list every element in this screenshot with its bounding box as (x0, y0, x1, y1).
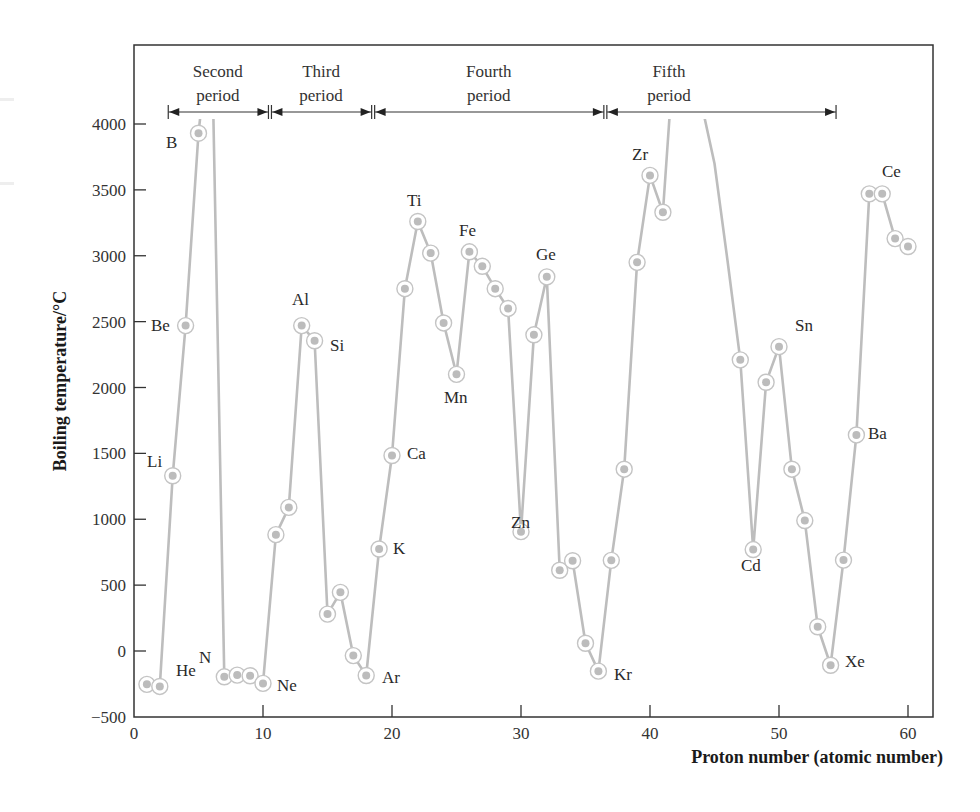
data-point (358, 668, 374, 684)
data-point (732, 352, 748, 368)
data-point (629, 254, 645, 270)
data-point (539, 269, 555, 285)
y-axis: −50005001000150020002500300035004000 (91, 115, 146, 727)
period-label: Fourth (466, 62, 512, 81)
element-label-n: N (199, 648, 211, 667)
element-label-xe: Xe (845, 652, 865, 671)
x-tick-label: 20 (384, 724, 401, 743)
data-point (771, 339, 787, 355)
data-point (384, 447, 400, 463)
data-point (345, 648, 361, 664)
arrowhead-right-icon (361, 108, 371, 116)
arrowhead-left-icon (376, 108, 386, 116)
element-labels: HeLiBeBNNeAlSiArKCaTiMnFeZnGeKrZrCdSnXeB… (147, 133, 901, 695)
element-label-sn: Sn (795, 316, 813, 335)
data-point (836, 552, 852, 568)
data-point (578, 635, 594, 651)
element-label-li: Li (147, 452, 162, 471)
data-point (165, 468, 181, 484)
data-point (784, 461, 800, 477)
period-label: period (196, 86, 240, 105)
y-tick-label: 0 (118, 642, 127, 661)
element-label-ba: Ba (868, 424, 887, 443)
y-tick-label: −500 (91, 708, 126, 727)
data-point (474, 258, 490, 274)
data-point (758, 374, 774, 390)
data-point (449, 366, 465, 382)
element-label-fe: Fe (459, 221, 476, 240)
arrowhead-right-icon (825, 108, 835, 116)
data-point (900, 239, 916, 255)
y-tick-label: 1000 (92, 510, 126, 529)
element-label-zr: Zr (632, 145, 648, 164)
element-label-ce: Ce (882, 162, 901, 181)
data-point (152, 678, 168, 694)
arrowhead-left-icon (169, 108, 179, 116)
period-label: Second (193, 62, 244, 81)
data-point (436, 315, 452, 331)
data-point (320, 606, 336, 622)
data-point (332, 584, 348, 600)
data-point (655, 204, 671, 220)
element-label-al: Al (292, 290, 309, 309)
x-axis-title: Proton number (atomic number) (691, 747, 943, 768)
period-brackets: SecondperiodThirdperiodFourthperiodFifth… (168, 62, 836, 119)
element-label-be: Be (151, 316, 170, 335)
data-point (255, 675, 271, 691)
data-markers (139, 125, 916, 694)
y-tick-label: 2000 (92, 379, 126, 398)
x-tick-label: 60 (900, 724, 917, 743)
x-tick-label: 30 (513, 724, 530, 743)
arrowhead-right-icon (257, 108, 267, 116)
period-label: period (299, 86, 343, 105)
data-point (294, 318, 310, 334)
data-point (874, 186, 890, 202)
data-point (642, 167, 658, 183)
data-point (281, 499, 297, 515)
x-tick-label: 0 (130, 724, 139, 743)
data-point (823, 657, 839, 673)
period-label: period (467, 86, 511, 105)
data-point (487, 281, 503, 297)
y-tick-label: 4000 (92, 115, 126, 134)
element-label-ge: Ge (536, 245, 556, 264)
data-point (797, 513, 813, 529)
element-label-he: He (176, 661, 196, 680)
element-label-ca: Ca (407, 444, 426, 463)
data-point (810, 619, 826, 635)
x-tick-label: 40 (642, 724, 659, 743)
data-point (565, 553, 581, 569)
y-tick-label: 3000 (92, 247, 126, 266)
data-point (371, 541, 387, 557)
y-tick-label: 3500 (92, 181, 126, 200)
data-point (603, 552, 619, 568)
data-point (307, 333, 323, 349)
data-point (590, 663, 606, 679)
data-point (500, 300, 516, 316)
element-label-ar: Ar (382, 668, 400, 687)
boiling-point-chart: −50005001000150020002500300035004000 010… (0, 0, 980, 812)
data-point (178, 318, 194, 334)
data-point (397, 281, 413, 297)
element-label-b: B (166, 133, 177, 152)
x-axis: 0102030405060 (130, 705, 917, 743)
page-artifact (0, 98, 14, 101)
data-point (616, 461, 632, 477)
y-axis-title: Boiling temperature/°C (50, 291, 70, 471)
data-point (461, 244, 477, 260)
period-label: Third (302, 62, 340, 81)
arrowhead-left-icon (608, 108, 618, 116)
element-label-kr: Kr (614, 665, 632, 684)
period-label: Fifth (652, 62, 686, 81)
data-point (410, 213, 426, 229)
element-label-ti: Ti (407, 191, 422, 210)
data-point (423, 245, 439, 261)
data-point (268, 527, 284, 543)
data-point (191, 125, 207, 141)
plot-frame (134, 45, 933, 717)
data-point (848, 427, 864, 443)
element-label-cd: Cd (741, 556, 761, 575)
y-tick-label: 1500 (92, 444, 126, 463)
x-tick-label: 50 (771, 724, 788, 743)
element-label-mn: Mn (444, 388, 468, 407)
